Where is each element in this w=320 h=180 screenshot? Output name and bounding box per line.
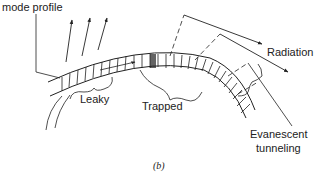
- dashed-lines: [170, 15, 258, 94]
- leaky-label: Leaky: [80, 93, 109, 105]
- mode-profile-pointer: [36, 14, 60, 78]
- radiation-label: Radiation: [267, 46, 313, 58]
- mode-marker: [150, 54, 156, 68]
- evanescent-pointer: [248, 63, 292, 126]
- mode-profile-label: mode profile: [2, 1, 63, 13]
- trapped-label: Trapped: [142, 100, 183, 112]
- evanescent-label-line1: Evanescent: [250, 128, 307, 140]
- leaky-arrows: [66, 18, 107, 62]
- figure-caption: (b): [153, 160, 165, 172]
- evanescent-label-line2: tunneling: [256, 142, 301, 154]
- radiation-arrows: [184, 15, 288, 72]
- bent-fiber-diagram: mode profile Radiation Leaky Trapped Eva…: [0, 0, 320, 180]
